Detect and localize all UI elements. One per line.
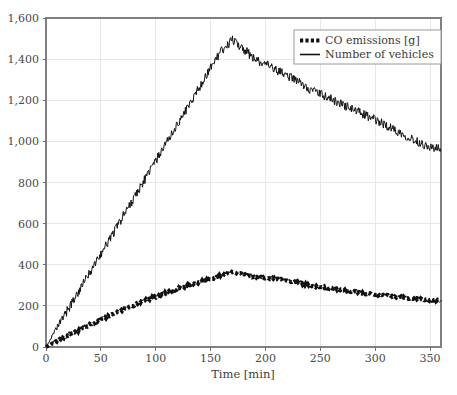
chart-legend[interactable]: CO emissions [g] Number of vehicles <box>294 30 441 64</box>
y-tick-label: 800 <box>18 177 39 190</box>
y-tick-label: 200 <box>18 300 39 313</box>
y-tick-label: 1,000 <box>8 135 40 148</box>
y-tick-label: 1,400 <box>8 53 40 66</box>
x-tick-label: 0 <box>43 352 50 365</box>
line-chart: 050100150200250300350 02004006008001,000… <box>0 0 457 395</box>
y-tick-label: 600 <box>18 218 39 231</box>
x-tick-label: 200 <box>255 352 276 365</box>
x-axis-title: Time [min] <box>211 367 275 381</box>
y-tick-label: 1,600 <box>8 12 40 25</box>
x-tick-label: 250 <box>310 352 331 365</box>
y-tick-label: 0 <box>32 341 39 354</box>
x-tick-label: 100 <box>145 352 166 365</box>
x-tick-label: 50 <box>94 352 108 365</box>
x-tick-label: 350 <box>420 352 441 365</box>
y-tick-label: 1,200 <box>8 94 40 107</box>
y-tick-label: 400 <box>18 259 39 272</box>
x-tick-label: 150 <box>200 352 221 365</box>
legend-label-co-emissions: CO emissions [g] <box>325 34 420 47</box>
legend-label-number-of-vehicles: Number of vehicles <box>325 48 434 61</box>
x-tick-label: 300 <box>365 352 386 365</box>
chart-figure: 050100150200250300350 02004006008001,000… <box>0 0 457 395</box>
